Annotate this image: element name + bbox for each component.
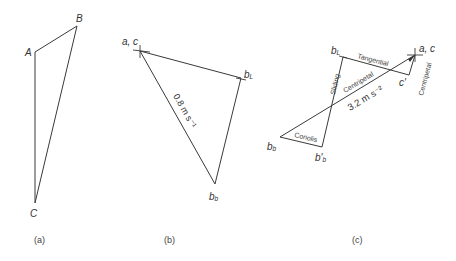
- point-label-c-prime: c': [399, 77, 407, 88]
- point-label-ac: a, c: [419, 43, 435, 54]
- sliding-label: Sliding: [329, 73, 342, 95]
- point-label-bl: bL: [244, 69, 254, 80]
- velocity-magnitude-label: 0.8 m s⁻¹: [171, 92, 198, 130]
- edge-ac-bb: [140, 51, 215, 184]
- point-label-bb: bb: [267, 141, 277, 152]
- edge-centripetal-long: [280, 55, 415, 137]
- point-label-c: C: [30, 208, 38, 219]
- point-label-b: B: [76, 13, 83, 24]
- point-label-bb: bb: [209, 191, 219, 202]
- caption-c: (c): [352, 235, 363, 245]
- edge-bl-bb: [215, 78, 241, 184]
- panel-c: a, c bL c' bb b'b Tangential Centripetal…: [267, 43, 435, 245]
- caption-a: (a): [34, 235, 45, 245]
- tangential-label: Tangential: [356, 52, 389, 68]
- edge-sliding: [322, 57, 343, 147]
- point-label-bb-prime: b'b: [315, 152, 326, 163]
- centripetal-short-label: Centripetal: [417, 61, 434, 96]
- point-label-a: A: [24, 47, 32, 58]
- point-label-bl: bL: [331, 45, 341, 56]
- edge-ab: [35, 26, 77, 52]
- velocity-acceleration-diagrams: A B C (a) a, c bL bb 0.8 m s⁻¹ (b) a, c …: [0, 0, 456, 261]
- edge-ac-bl: [140, 51, 241, 78]
- panel-b: a, c bL bb 0.8 m s⁻¹ (b): [122, 36, 254, 245]
- caption-b: (b): [164, 235, 175, 245]
- point-label-ac: a, c: [122, 36, 138, 47]
- panel-a: A B C (a): [24, 13, 83, 245]
- edge-bc: [35, 26, 77, 203]
